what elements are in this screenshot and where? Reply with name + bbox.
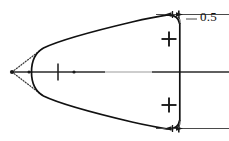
dimension-top-label-text: 0.5 [200, 9, 217, 25]
cross-marker-lower [162, 98, 177, 113]
technical-drawing-figure: 0.5 [0, 0, 229, 141]
cross-marker-upper [162, 32, 177, 47]
virtual-apex-point [10, 70, 14, 74]
profile-lower-surface [32, 72, 180, 129]
dimension-callout-top [156, 11, 229, 24]
profile-diagram-svg [0, 0, 229, 141]
axis-dot-marker-1 [28, 71, 31, 74]
axis-dot-marker-2 [72, 70, 75, 73]
dimension-bottom-arrow-left-icon [165, 126, 172, 130]
dimension-callout-bottom [156, 121, 229, 133]
profile-upper-surface [32, 15, 180, 72]
